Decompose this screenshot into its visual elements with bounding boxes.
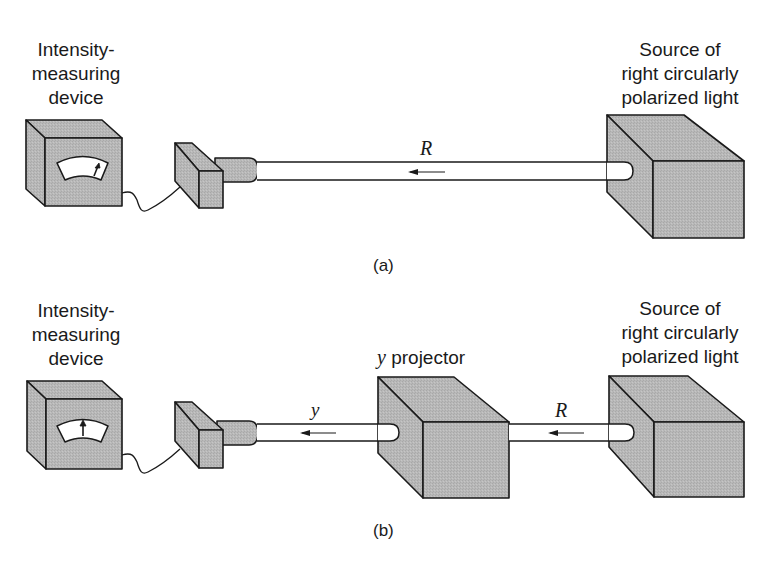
beam-label-r-b: R: [555, 400, 567, 420]
source-label-line: polarized light: [598, 86, 762, 110]
source-label-line: Source of: [598, 297, 762, 321]
source-label-line: right circularly: [598, 62, 762, 86]
meter-dial-icon: [57, 157, 108, 181]
source-label-b: Source of right circularly polarized lig…: [598, 297, 762, 369]
projector-label-variable: y: [377, 346, 386, 368]
projector-label: y projector: [377, 346, 465, 369]
light-beam-r-b: [509, 424, 612, 441]
panel-b: [27, 376, 744, 498]
figure: Intensity- measuring device Source of ri…: [0, 0, 778, 569]
detector-label-line: Intensity-: [6, 38, 146, 62]
detector-label-line: measuring: [6, 323, 146, 347]
source-label-line: right circularly: [598, 321, 762, 345]
detector-label-b: Intensity- measuring device: [6, 299, 146, 371]
intensity-meter-a: [26, 120, 122, 206]
panel-caption-a: (a): [373, 256, 394, 276]
detector-label-line: device: [6, 86, 146, 110]
detector-label-line: device: [6, 347, 146, 371]
beam-label-r-a: R: [420, 138, 432, 158]
detector-label-line: measuring: [6, 62, 146, 86]
light-beam-a: [257, 162, 633, 180]
detector-label-a: Intensity- measuring device: [6, 38, 146, 110]
cable-b: [122, 449, 180, 473]
panel-a: [26, 115, 744, 238]
intensity-meter-b: [27, 381, 122, 469]
detector-label-line: Intensity-: [6, 299, 146, 323]
projector-label-text: projector: [386, 347, 465, 368]
beam-label-y: y: [311, 400, 319, 420]
source-label-a: Source of right circularly polarized lig…: [598, 38, 762, 110]
cable-a: [122, 187, 180, 211]
source-label-line: polarized light: [598, 345, 762, 369]
detector-a: [175, 143, 258, 208]
panel-caption-b: (b): [373, 521, 394, 541]
source-label-line: Source of: [598, 38, 762, 62]
detector-b: [175, 402, 258, 468]
